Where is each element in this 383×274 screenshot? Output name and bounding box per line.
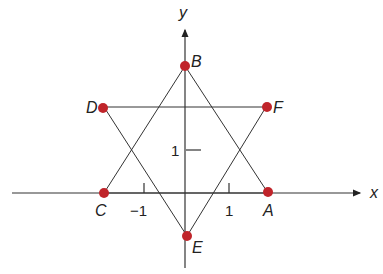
star-diagram: B D F C A E x y −1 1 1 bbox=[0, 0, 383, 274]
x-tick-1-label: 1 bbox=[225, 202, 233, 219]
label-D: D bbox=[86, 99, 98, 116]
point-B bbox=[180, 61, 190, 71]
x-axis-label: x bbox=[369, 184, 379, 201]
point-D bbox=[98, 103, 108, 113]
point-E bbox=[182, 231, 192, 241]
label-E: E bbox=[192, 239, 203, 256]
triangle-BCA bbox=[104, 66, 268, 193]
y-tick-1-label: 1 bbox=[171, 142, 179, 159]
point-A bbox=[263, 187, 273, 197]
label-F: F bbox=[273, 99, 284, 116]
label-C: C bbox=[95, 202, 107, 219]
point-C bbox=[99, 188, 109, 198]
y-axis-label: y bbox=[178, 4, 188, 21]
point-F bbox=[262, 102, 272, 112]
label-A: A bbox=[262, 202, 274, 219]
label-B: B bbox=[191, 53, 202, 70]
x-tick-neg1-label: −1 bbox=[130, 202, 147, 219]
